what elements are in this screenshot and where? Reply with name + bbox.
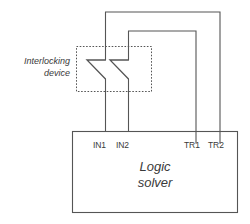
terminal-label-tr2: TR2: [208, 140, 224, 150]
terminal-label-tr1: TR1: [184, 140, 200, 150]
interlocking-device-label-line2: device: [6, 68, 70, 80]
logic-solver-label-line1: Logic: [72, 159, 238, 175]
diagram-canvas: Interlocking device IN1 IN2 TR1 TR2 Logi…: [0, 0, 250, 224]
terminal-label-in1: IN1: [93, 140, 106, 150]
logic-solver-label: Logic solver: [72, 159, 238, 191]
wire-tr1-to-in2: [129, 31, 197, 143]
interlocking-device-enclosure: [77, 47, 152, 92]
switch-contact-right: [110, 60, 129, 79]
terminal-label-in2: IN2: [116, 140, 129, 150]
interlocking-device-label: Interlocking device: [6, 56, 70, 79]
logic-solver-label-line2: solver: [72, 175, 238, 191]
wire-tr2-to-in1: [106, 12, 221, 143]
switch-contact-left: [87, 60, 106, 79]
interlocking-device-label-line1: Interlocking: [6, 56, 70, 68]
